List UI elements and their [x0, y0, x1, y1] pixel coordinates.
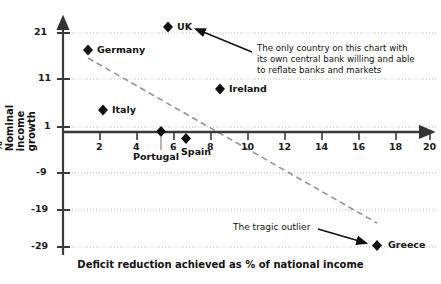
- y-tick-label-11: 11: [38, 72, 51, 83]
- data-point-ireland: [215, 84, 225, 95]
- data-point-uk: [163, 22, 173, 33]
- data-point-greece: [372, 240, 382, 251]
- point-label-spain: Spain: [181, 146, 211, 157]
- y-tick-label-neg29: -29: [31, 240, 48, 251]
- data-point-spain: [181, 133, 191, 144]
- x-axis: [63, 132, 432, 140]
- greece-annotation: The tragic outlier: [233, 222, 310, 233]
- point-label-portugal: Portugal: [133, 151, 179, 162]
- x-tick-label-10: 10: [241, 141, 254, 152]
- y-tick-label-1: 1: [44, 120, 51, 131]
- point-label-greece: Greece: [388, 239, 425, 250]
- data-point-germany: [83, 45, 93, 56]
- y-tick-label-21: 21: [34, 26, 47, 37]
- data-point-portugal: [156, 126, 166, 137]
- x-tick-label-2: 2: [96, 141, 103, 152]
- uk-annotation-arrow: [196, 29, 252, 52]
- greece-annotation-arrow: [318, 229, 366, 243]
- x-tick-label-12: 12: [278, 141, 291, 152]
- uk-annotation-line-2: its own central bank willing and able: [257, 54, 415, 64]
- x-tick-label-20: 20: [423, 141, 436, 152]
- point-label-italy: Italy: [112, 104, 136, 115]
- data-point-italy: [98, 105, 108, 116]
- x-tick-label-14: 14: [315, 141, 328, 152]
- x-axis-title: Deficit reduction achieved as % of natio…: [0, 259, 441, 270]
- y-tick-label-neg19: -19: [31, 203, 48, 214]
- x-tick-label-18: 18: [389, 141, 402, 152]
- x-axis-title-wrap: Deficit reduction achieved as % of natio…: [0, 259, 441, 270]
- y-axis-title: % Nominal income growth: [0, 104, 37, 150]
- y-axis-title-wrap: % Nominal income growth: [2, 0, 28, 255]
- y-tick-label-neg9: -9: [36, 166, 47, 177]
- y-axis: [57, 18, 70, 255]
- uk-annotation-line-3: to reflate banks and markets: [257, 65, 381, 75]
- point-label-germany: Germany: [97, 44, 145, 55]
- x-tick-label-16: 16: [352, 141, 365, 152]
- scatter-chart: 21 11 1 -9 -19 -29 2 4 6 8 10 12 14 16 1…: [0, 0, 441, 284]
- point-label-ireland: Ireland: [229, 83, 267, 94]
- uk-annotation-line-1: The only country on this chart with: [257, 43, 407, 53]
- point-label-uk: UK: [177, 21, 192, 32]
